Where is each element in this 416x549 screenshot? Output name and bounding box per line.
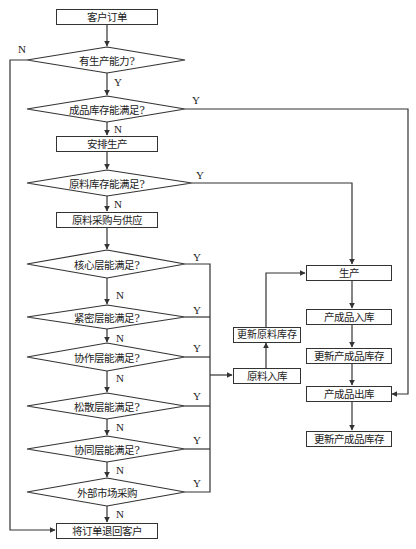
decision-close-label: 紧密层能满足? [74,313,140,324]
edge-label-capacity-no: N [18,44,26,55]
edge-label-loose-no: N [116,422,124,433]
decision-cooperate-label: 协作层能满足? [74,353,140,364]
process-finished-in: 产成品入库 [306,309,392,325]
decision-loose-label: 松散层能满足? [74,402,140,413]
edge-label-collab-no: N [116,465,124,476]
decision-finished-stock-label: 成品库存能满足? [69,105,145,116]
edge-label-loose-yes: Y [193,391,201,402]
decision-core-label: 核心层能满足? [74,260,140,271]
edge-label-material-no: N [114,199,122,210]
decision-material-stock-label: 原料库存能满足? [69,179,145,190]
edge-label-finished-yes: Y [192,95,200,106]
process-customer-order: 客户订单 [56,9,158,25]
edge-label-cooperate-yes: Y [193,343,201,354]
edge-label-capacity-yes: Y [114,77,122,88]
edge-label-close-yes: Y [193,305,201,316]
process-finished-out: 产成品出库 [306,386,392,402]
process-return-order: 将订单退回客户 [56,523,158,539]
process-material-procurement: 原料采购与供应 [56,212,158,228]
edge-label-core-yes: Y [193,252,201,263]
edge-label-collab-yes: Y [193,435,201,446]
process-update-material-stock: 更新原料库存 [233,327,301,343]
edge-label-cooperate-no: N [116,373,124,384]
decision-collab-label: 协同层能满足? [74,445,140,456]
decision-external-label: 外部市场采购 [77,488,137,499]
edge-label-core-no: N [116,290,124,301]
edge-label-close-no: N [116,333,124,344]
edge-label-material-yes: Y [196,170,204,181]
process-update-finished-stock-2: 更新产成品库存 [306,431,392,447]
edge-label-external-yes: Y [193,478,201,489]
process-schedule-production: 安排生产 [56,136,158,152]
process-produce: 生产 [306,265,392,281]
edge-label-finished-no: N [114,124,122,135]
process-material-in: 原料入库 [233,368,301,384]
process-update-finished-stock-1: 更新产成品库存 [306,348,392,364]
edge-label-external-no: N [116,509,124,520]
decision-capacity-label: 有生产能力? [79,56,135,67]
